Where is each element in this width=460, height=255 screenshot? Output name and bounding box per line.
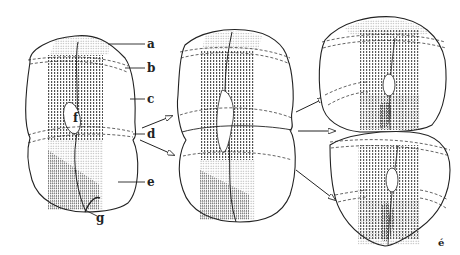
diagram-figure: a b c d e f g é: [0, 0, 460, 255]
daughter-cell-upper: [319, 17, 446, 132]
label-g: g: [96, 212, 104, 224]
label-e: e: [147, 176, 155, 188]
parent-cell: [26, 36, 138, 212]
dividing-cell: [177, 30, 295, 222]
arrows-stage1-to-stage2: [140, 116, 174, 155]
daughter-cell-lower: [330, 132, 450, 246]
corner-mark: é: [438, 238, 444, 248]
label-f: f: [73, 112, 78, 124]
label-c: c: [147, 93, 154, 105]
label-d: d: [147, 128, 155, 140]
label-b: b: [147, 62, 155, 74]
label-a: a: [147, 38, 155, 50]
